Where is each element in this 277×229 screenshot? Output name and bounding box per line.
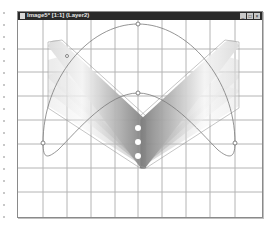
- left-handle[interactable]: [41, 141, 45, 145]
- left-gradient-bands: [48, 40, 146, 169]
- center-highlights: [135, 125, 141, 159]
- right-gradient-bands: [140, 40, 239, 169]
- top-arc-handle[interactable]: [136, 22, 140, 26]
- window-controls: _ □ ×: [240, 13, 260, 19]
- right-handle[interactable]: [233, 141, 237, 145]
- close-button[interactable]: ×: [254, 13, 260, 19]
- image-canvas[interactable]: [18, 20, 262, 217]
- window-title: Image5* [1:1] (Layer2): [27, 11, 89, 20]
- maximize-button[interactable]: □: [247, 13, 253, 19]
- image-document-icon: [20, 13, 25, 19]
- ruler-markers: [0, 0, 8, 229]
- canvas-drawing[interactable]: [18, 20, 262, 217]
- minimize-button[interactable]: _: [240, 13, 246, 19]
- image-window[interactable]: Image5* [1:1] (Layer2) _ □ ×: [17, 11, 263, 218]
- center-handle[interactable]: [136, 91, 140, 95]
- left-arc-handle[interactable]: [66, 55, 69, 58]
- title-bar[interactable]: Image5* [1:1] (Layer2) _ □ ×: [18, 12, 262, 20]
